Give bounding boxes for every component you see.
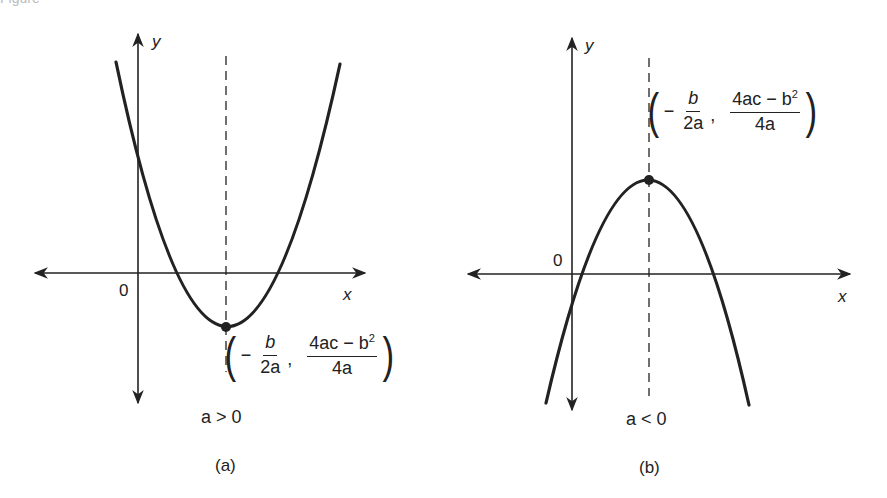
panel-b-y-label: y xyxy=(585,36,594,56)
parabola-diagram xyxy=(0,0,887,498)
panel-b-caption: (b) xyxy=(639,458,660,478)
panel-a-origin-label: 0 xyxy=(119,281,128,301)
panel-b-vertex-point xyxy=(644,175,654,185)
panel-a-caption: (a) xyxy=(215,456,236,476)
panel-b-parabola xyxy=(546,180,749,405)
panel-b-vertex-x: b 2a xyxy=(683,89,703,134)
panel-a-vertex-x: b 2a xyxy=(260,333,280,378)
panel-a-vertex-y: 4ac − b2 4a xyxy=(307,332,377,379)
panel-b-vertex-y: 4ac − b2 4a xyxy=(730,88,800,135)
panel-a-condition: a > 0 xyxy=(201,407,242,428)
panel-b-origin-label: 0 xyxy=(553,251,562,271)
panel-a-x-label: x xyxy=(343,285,352,305)
panel-b-x-label: x xyxy=(838,287,847,307)
panel-b-condition: a < 0 xyxy=(626,409,667,430)
panel-b-vertex-label: ( − b 2a , 4ac − b2 4a ) xyxy=(645,86,820,136)
panel-a-parabola xyxy=(116,62,340,327)
panel-a-vertex-label: ( − b 2a , 4ac − b2 4a ) xyxy=(222,330,397,380)
panel-a-y-label: y xyxy=(152,32,161,52)
